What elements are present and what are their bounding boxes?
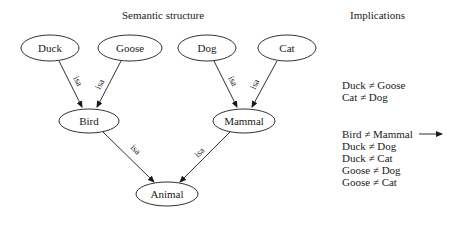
node-label-cat: Cat: [279, 42, 294, 54]
node-label-bird: Bird: [79, 115, 99, 127]
node-label-duck: Duck: [38, 42, 62, 54]
edge-label: isa: [129, 142, 143, 156]
edge-label: isa: [248, 77, 261, 90]
node-label-animal: Animal: [151, 188, 184, 200]
node-label-mammal: Mammal: [224, 115, 264, 127]
implication-item: Goose ≠ Dog: [342, 164, 413, 176]
edge-label: isa: [71, 74, 84, 87]
implication-item: Duck ≠ Goose: [342, 79, 405, 91]
implication-item: Duck ≠ Cat: [342, 152, 413, 164]
implication-item: Duck ≠ Dog: [342, 140, 413, 152]
node-label-goose: Goose: [116, 42, 144, 54]
implication-item: Goose ≠ Cat: [342, 176, 413, 188]
edge-label: isa: [93, 77, 106, 90]
edge-bird-animal: [103, 132, 154, 182]
node-label-dog: Dog: [198, 42, 217, 54]
edge-label: isa: [226, 74, 239, 87]
implication-item: Cat ≠ Dog: [342, 91, 405, 103]
edge-mammal-animal: [180, 132, 230, 182]
implication-item: Bird ≠ Mammal: [342, 128, 413, 140]
implications-group-1: Duck ≠ Goose Cat ≠ Dog: [342, 79, 405, 103]
implications-group-2: Bird ≠ Mammal Duck ≠ Dog Duck ≠ Cat Goos…: [342, 128, 413, 188]
